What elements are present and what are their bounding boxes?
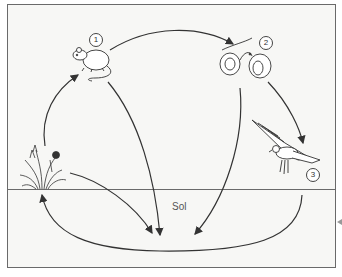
number-1-label: 1 [94,35,98,44]
number-2-label: 2 [264,38,268,47]
mouse-icon [73,48,111,82]
arrow-plant-to-mouse [44,75,78,146]
number-badge-1: 1 [89,33,103,47]
arrow-mouse-to-snake [110,30,233,50]
edge-arrow-icon [337,219,342,225]
arrows-and-organisms [0,0,342,277]
soil-label: Sol [172,201,186,212]
number-badge-3: 3 [306,168,320,182]
number-badge-2: 2 [259,36,273,50]
arrow-mouse-to-soil [108,82,160,235]
arrow-plant-to-soil [70,173,152,233]
eagle-icon [252,120,320,174]
arrow-snake-to-soil [195,88,241,234]
food-chain-diagram: 1 2 3 Sol [0,0,342,277]
plant-icon [20,145,66,189]
number-3-label: 3 [311,170,315,179]
